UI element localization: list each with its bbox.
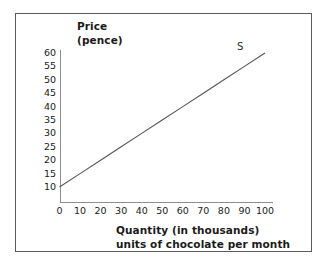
x-axis-title-line-2: units of chocolate per month [116,238,290,252]
x-axis-title: Quantity (in thousands) units of chocola… [116,224,290,251]
x-axis-title-line-1: Quantity (in thousands) [116,224,290,238]
y-axis-title: Price (pence) [77,20,123,47]
y-axis-title-line-2: (pence) [77,34,123,48]
figure-border [15,13,312,252]
y-axis-title-line-1: Price [77,20,123,34]
